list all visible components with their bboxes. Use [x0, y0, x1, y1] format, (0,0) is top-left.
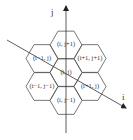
i-axis-label: i [122, 92, 125, 102]
hex-grid-diagram: j i (i, j+1)(i−1, j)(i+1, j+1)(i, j)(i−1… [0, 0, 133, 140]
cell-label: (i+1, j) [81, 82, 99, 90]
j-axis-label: j [50, 7, 54, 17]
cell-label: (i, j−1) [57, 96, 75, 104]
cell-label: (i−1, j) [33, 54, 51, 62]
cell-label: (i, j+1) [57, 40, 75, 48]
cell-label: (i+1, j+1) [77, 54, 102, 62]
cell-label: (i−1, j−1) [29, 82, 54, 90]
cell-label: (i, j) [60, 68, 71, 76]
